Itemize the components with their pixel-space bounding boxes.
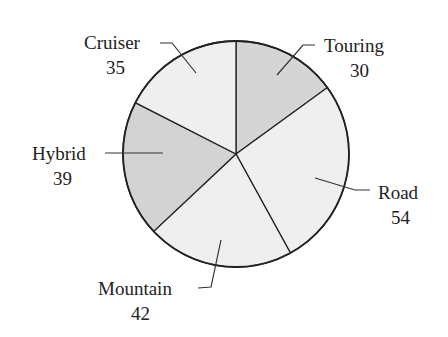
label-touring-name: Touring bbox=[324, 35, 384, 56]
label-road-name: Road bbox=[378, 182, 419, 203]
label-cruiser-value: 35 bbox=[106, 57, 125, 78]
label-road-value: 54 bbox=[391, 207, 411, 228]
label-hybrid-value: 39 bbox=[53, 168, 72, 189]
pie-chart: Touring 30 Road 54 Mountain 42 Hybrid 39… bbox=[0, 0, 448, 337]
label-touring-value: 30 bbox=[350, 60, 369, 81]
pie-slices bbox=[123, 41, 349, 267]
label-mountain-name: Mountain bbox=[98, 278, 172, 299]
label-cruiser-name: Cruiser bbox=[84, 32, 141, 53]
label-hybrid-name: Hybrid bbox=[32, 143, 86, 164]
label-mountain-value: 42 bbox=[131, 303, 150, 324]
